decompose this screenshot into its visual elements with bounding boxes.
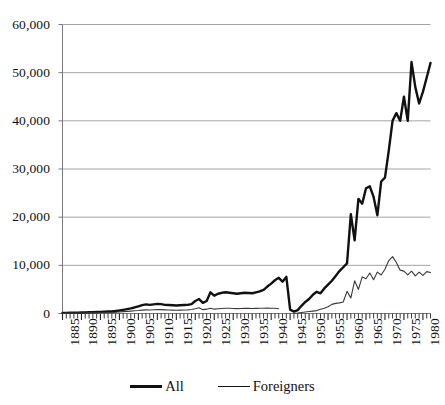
x-axis-label-1925: 1925 (219, 318, 233, 346)
legend-entry-all[interactable]: All (130, 379, 184, 394)
x-axis-label-1935: 1935 (257, 318, 271, 346)
x-axis-label-1920: 1920 (200, 318, 214, 346)
x-axis-label-1890: 1890 (86, 318, 100, 346)
x-axis-label-1930: 1930 (238, 318, 252, 346)
x-axis-label-1980: 1980 (428, 318, 442, 346)
chart-container: 010,00020,00030,00040,00050,00060,000 18… (0, 0, 445, 405)
chart-legend: AllForeigners (0, 372, 445, 400)
x-axis-label-1895: 1895 (105, 318, 119, 346)
x-axis-label-1975: 1975 (409, 318, 423, 346)
x-axis-label-1940: 1940 (276, 318, 290, 346)
line-swatch-icon (218, 386, 250, 387)
x-axis-label-1885: 1885 (68, 318, 82, 346)
x-axis-label-1900: 1900 (124, 318, 138, 346)
legend-label-all: All (165, 379, 184, 394)
x-axis-label-1970: 1970 (390, 318, 404, 346)
x-axis-label-1955: 1955 (333, 318, 347, 346)
line-swatch-icon (130, 385, 162, 388)
x-axis-label-1965: 1965 (371, 318, 385, 346)
x-axis-label-1910: 1910 (162, 318, 176, 346)
x-axis-label-1945: 1945 (295, 318, 309, 346)
x-axis-label-1960: 1960 (352, 318, 366, 346)
x-axis-tick-labels: 1885189018951900190519101915192019251930… (0, 0, 445, 405)
x-axis-label-1905: 1905 (143, 318, 157, 346)
x-axis-label-1915: 1915 (181, 318, 195, 346)
legend-label-foreigners: Foreigners (253, 379, 315, 394)
x-axis-label-1950: 1950 (314, 318, 328, 346)
legend-entry-foreigners[interactable]: Foreigners (218, 379, 315, 394)
